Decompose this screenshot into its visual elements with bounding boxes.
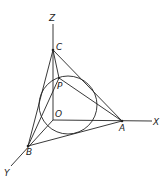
edge-ca: [53, 50, 122, 121]
y-axis: [11, 120, 53, 166]
edge-cp: [53, 50, 59, 78]
edge-pa: [59, 78, 122, 121]
label-x-axis: X: [152, 117, 160, 127]
label-c: C: [56, 42, 63, 52]
label-z-axis: Z: [48, 13, 56, 23]
edge-bc: [28, 50, 53, 146]
point-a-dot: [121, 120, 124, 123]
label-p: P: [57, 81, 63, 91]
label-b: B: [26, 147, 32, 157]
label-o: O: [55, 109, 62, 119]
label-y-axis: Y: [4, 168, 11, 178]
point-c-dot: [52, 49, 55, 52]
geometry-diagram: O A B C P X Y Z: [0, 0, 168, 184]
point-p-dot: [58, 77, 60, 79]
x-axis: [53, 120, 152, 121]
inscribed-circle: [39, 76, 97, 134]
label-a: A: [118, 123, 125, 133]
